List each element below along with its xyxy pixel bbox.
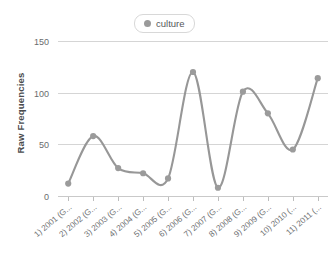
- plot-area: 050100150 1) 2001 (G...2) 2002 (G...3) 2…: [0, 0, 336, 259]
- data-point[interactable]: [240, 89, 246, 95]
- data-point[interactable]: [290, 146, 296, 152]
- series-culture-line: [68, 72, 318, 188]
- data-point[interactable]: [90, 133, 96, 139]
- data-point[interactable]: [315, 75, 321, 81]
- y-tick-label: 0: [44, 192, 49, 202]
- gridlines: [58, 42, 328, 197]
- data-point[interactable]: [65, 181, 71, 187]
- y-tick-label: 100: [34, 89, 49, 99]
- data-point[interactable]: [115, 165, 121, 171]
- data-point[interactable]: [165, 175, 171, 181]
- data-point[interactable]: [265, 110, 271, 116]
- x-tick-labels: 1) 2001 (G...2) 2002 (G...3) 2003 (G...4…: [33, 203, 324, 239]
- y-tick-label: 150: [34, 37, 49, 47]
- chart-container: culture Raw Frequencies 050100150 1) 200…: [0, 0, 336, 259]
- data-point[interactable]: [140, 170, 146, 176]
- data-point[interactable]: [190, 69, 196, 75]
- x-tick-marks: [69, 197, 319, 201]
- series-culture-markers: [65, 69, 321, 191]
- y-tick-label: 50: [39, 140, 49, 150]
- y-tick-labels: 050100150: [34, 37, 49, 202]
- data-point[interactable]: [215, 185, 221, 191]
